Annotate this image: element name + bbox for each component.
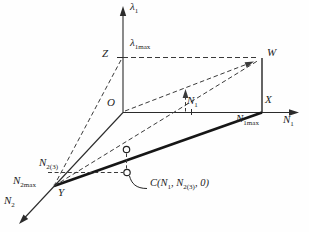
c-label-leader [130, 176, 148, 189]
label-w: W [267, 47, 276, 58]
label-y: Y [58, 187, 64, 198]
figure-canvas: λ1 λ1max Z W O X N1 N1max N1 N2(3) N2max… [0, 0, 309, 232]
label-n1max: N1max [236, 113, 259, 124]
label-lambda1-axis: λ1 [130, 1, 138, 12]
label-n1-point: N1 [187, 95, 198, 106]
diagram-geometry [0, 0, 309, 232]
point-marker-upper [123, 146, 129, 152]
lambda1-axis-arrow-icon [120, 6, 126, 16]
label-o: O [107, 97, 115, 108]
label-lambda1max: λ1max [130, 37, 150, 48]
label-n2-axis: N2 [4, 195, 15, 206]
label-c-point: C(N1, N2(3), 0) [150, 178, 209, 189]
segment-y-x-thick [54, 113, 262, 187]
label-n1-axis: N1 [283, 114, 294, 125]
label-n2-3: N2(3) [39, 157, 58, 168]
label-x: X [265, 94, 272, 105]
label-n2max: N2max [13, 175, 36, 186]
dashed-y-w [54, 60, 259, 186]
point-marker-c [124, 169, 130, 175]
label-z: Z [102, 48, 108, 59]
